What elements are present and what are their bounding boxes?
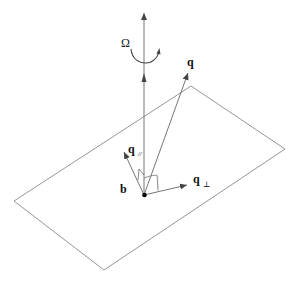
q-parallel-arrowhead-icon xyxy=(142,73,147,82)
omega-label: Ω xyxy=(121,36,130,50)
q-parallel-label: q // xyxy=(128,142,143,158)
diagram-canvas: Ω q q // b q ⊥ xyxy=(0,0,293,281)
rotation-arrowhead-icon xyxy=(157,48,161,55)
q-perp-label: q ⊥ xyxy=(193,172,210,189)
b-label: b xyxy=(120,182,127,196)
rotation-arrow-icon xyxy=(131,49,159,63)
q-parallel-base: q xyxy=(128,142,135,156)
q-label: q xyxy=(187,55,194,69)
origin-point xyxy=(142,193,147,198)
q-perp-subscript: ⊥ xyxy=(203,180,211,189)
b-vector xyxy=(124,152,144,195)
q-vector xyxy=(144,73,188,195)
q-perp-base: q xyxy=(193,172,200,186)
zigzag-marker xyxy=(138,169,144,180)
right-angle-marker xyxy=(144,175,158,190)
q-parallel-subscript: // xyxy=(137,150,143,158)
q-perp-vector xyxy=(144,185,187,195)
plane xyxy=(14,86,285,270)
